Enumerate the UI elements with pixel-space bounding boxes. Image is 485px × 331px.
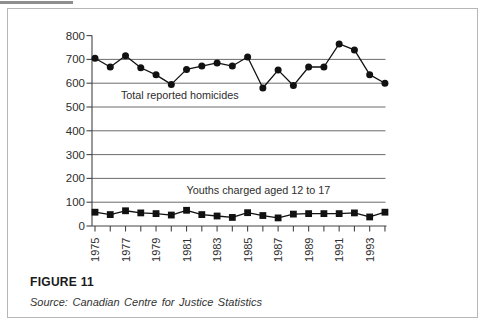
data-point-circle bbox=[275, 67, 282, 74]
svg-text:800: 800 bbox=[66, 30, 85, 42]
data-point-square bbox=[366, 214, 373, 221]
scanned-figure-page: { "figure": { "caption": "FIGURE 11", "s… bbox=[0, 0, 485, 331]
svg-text:1989: 1989 bbox=[303, 238, 315, 262]
annotation-total-homicides: Total reported homicides bbox=[121, 89, 239, 101]
svg-text:500: 500 bbox=[66, 101, 85, 113]
series-total-homicides bbox=[92, 40, 389, 91]
svg-text:1979: 1979 bbox=[150, 238, 162, 262]
data-point-square bbox=[321, 210, 328, 217]
data-point-square bbox=[107, 211, 114, 218]
data-point-square bbox=[183, 207, 190, 214]
svg-text:1975: 1975 bbox=[89, 238, 101, 262]
svg-text:600: 600 bbox=[66, 77, 85, 89]
data-point-circle bbox=[229, 63, 236, 70]
data-point-circle bbox=[153, 71, 160, 78]
svg-text:1983: 1983 bbox=[211, 238, 223, 262]
data-point-square bbox=[229, 214, 236, 221]
svg-text:1981: 1981 bbox=[181, 238, 193, 262]
data-point-square bbox=[382, 209, 389, 216]
data-point-circle bbox=[183, 66, 190, 73]
data-point-circle bbox=[214, 59, 221, 66]
svg-text:1977: 1977 bbox=[120, 238, 132, 262]
data-point-square bbox=[290, 211, 297, 218]
data-point-square bbox=[137, 210, 144, 217]
svg-text:400: 400 bbox=[66, 125, 85, 137]
svg-text:100: 100 bbox=[66, 196, 85, 208]
data-point-circle bbox=[366, 71, 373, 78]
data-point-square bbox=[214, 213, 221, 220]
y-tick-labels: 0100200300400500600700800 bbox=[66, 30, 85, 232]
data-point-circle bbox=[290, 82, 297, 89]
svg-text:300: 300 bbox=[66, 149, 85, 161]
data-point-circle bbox=[336, 40, 343, 47]
data-point-square bbox=[351, 210, 358, 217]
data-point-circle bbox=[351, 46, 358, 53]
svg-text:1985: 1985 bbox=[242, 238, 254, 262]
svg-text:700: 700 bbox=[66, 53, 85, 65]
data-point-circle bbox=[259, 84, 266, 91]
grid-lines bbox=[92, 59, 386, 202]
data-point-circle bbox=[168, 81, 175, 88]
data-point-square bbox=[153, 210, 160, 217]
data-point-square bbox=[336, 210, 343, 217]
data-point-circle bbox=[92, 55, 99, 62]
data-point-square bbox=[122, 207, 129, 214]
data-point-circle bbox=[305, 64, 312, 71]
figure-source: Source: Canadian Centre for Justice Stat… bbox=[30, 296, 262, 308]
svg-text:200: 200 bbox=[66, 172, 85, 184]
data-point-square bbox=[92, 209, 99, 216]
data-point-square bbox=[305, 210, 312, 217]
svg-text:1991: 1991 bbox=[333, 238, 345, 262]
data-point-square bbox=[259, 212, 266, 219]
svg-text:1987: 1987 bbox=[272, 238, 284, 262]
x-tick-labels: 1975197719791981198319851987198919911993 bbox=[89, 238, 376, 262]
svg-text:0: 0 bbox=[79, 220, 85, 232]
data-point-square bbox=[198, 211, 205, 218]
data-point-circle bbox=[244, 54, 251, 61]
data-point-circle bbox=[107, 64, 114, 71]
annotation-youths-charged: Youths charged aged 12 to 17 bbox=[187, 184, 331, 196]
data-point-square bbox=[168, 212, 175, 219]
data-point-square bbox=[275, 215, 282, 222]
data-point-circle bbox=[381, 80, 388, 87]
data-point-circle bbox=[198, 63, 205, 70]
data-point-circle bbox=[320, 64, 327, 71]
series-youths-charged bbox=[92, 207, 389, 221]
data-point-circle bbox=[122, 52, 129, 59]
figure-caption: FIGURE 11 bbox=[30, 275, 94, 289]
svg-text:1993: 1993 bbox=[364, 238, 376, 262]
data-point-circle bbox=[137, 64, 144, 71]
data-point-square bbox=[244, 209, 251, 216]
